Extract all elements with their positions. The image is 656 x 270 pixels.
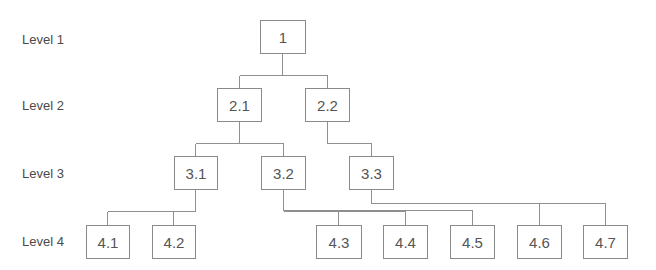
node-3-3: 3.3 <box>349 156 394 190</box>
node-2-1: 2.1 <box>217 88 262 122</box>
node-1: 1 <box>260 20 306 54</box>
level-3-label: Level 3 <box>22 166 64 182</box>
level-2-label: Level 2 <box>22 98 64 114</box>
node-4-2: 4.2 <box>152 225 196 259</box>
node-2-2: 2.2 <box>305 88 350 122</box>
node-4-3: 4.3 <box>316 225 362 259</box>
level-4-label: Level 4 <box>22 234 64 250</box>
node-4-7: 4.7 <box>583 225 628 259</box>
node-3-1: 3.1 <box>174 156 218 190</box>
node-4-5: 4.5 <box>450 225 495 259</box>
node-3-2: 3.2 <box>261 156 306 190</box>
node-4-1: 4.1 <box>86 225 130 259</box>
level-1-label: Level 1 <box>22 32 64 48</box>
node-4-6: 4.6 <box>517 225 562 259</box>
node-4-4: 4.4 <box>383 225 428 259</box>
